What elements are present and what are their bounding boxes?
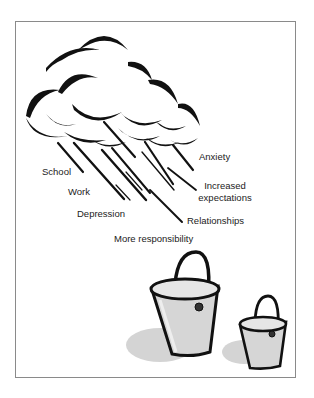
label-expectations: expectations: [194, 192, 256, 203]
label-relationships: Relationships: [187, 215, 244, 226]
label-anxiety: Anxiety: [199, 151, 230, 162]
label-more-responsibility: More responsibility: [114, 233, 193, 244]
label-work: Work: [68, 186, 90, 197]
illustration: [0, 0, 314, 398]
label-school: School: [42, 166, 71, 177]
small-bucket-icon: [240, 296, 286, 369]
label-increased: Increased: [200, 180, 250, 191]
storm-cloud-icon: [26, 36, 203, 147]
label-depression: Depression: [77, 208, 125, 219]
